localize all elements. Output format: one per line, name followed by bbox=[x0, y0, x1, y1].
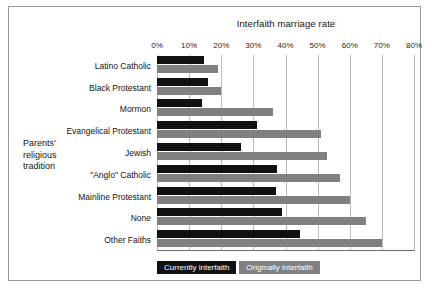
bar-currently-interfaith[interactable] bbox=[157, 143, 241, 151]
plot-area bbox=[157, 55, 414, 251]
chart-legend: Currently interfaithOriginally interfait… bbox=[157, 261, 320, 274]
bar-currently-interfaith[interactable] bbox=[157, 56, 204, 64]
x-axis-tick-labels: 0%10%20%30%40%50%60%70%80% bbox=[9, 41, 430, 53]
bar-originally-interfaith[interactable] bbox=[157, 87, 221, 95]
bar-group[interactable] bbox=[157, 207, 414, 229]
bar-group[interactable] bbox=[157, 120, 414, 142]
chart-figure-frame: Interfaith marriage rate 0%10%20%30%40%5… bbox=[8, 6, 421, 281]
bar-currently-interfaith[interactable] bbox=[157, 187, 276, 195]
bar-originally-interfaith[interactable] bbox=[157, 152, 327, 160]
legend-item[interactable]: Originally interfaith bbox=[239, 261, 319, 274]
bar-group[interactable] bbox=[157, 98, 414, 120]
category-label: None bbox=[27, 213, 151, 223]
bar-group[interactable] bbox=[157, 77, 414, 99]
bar-originally-interfaith[interactable] bbox=[157, 196, 350, 204]
x-tick-label: 0% bbox=[151, 41, 163, 50]
bar-originally-interfaith[interactable] bbox=[157, 130, 321, 138]
category-labels: Latino CatholicBlack ProtestantMormonEva… bbox=[27, 55, 151, 251]
bar-group[interactable] bbox=[157, 186, 414, 208]
x-tick-label: 50% bbox=[310, 41, 326, 50]
bar-group[interactable] bbox=[157, 229, 414, 251]
bar-currently-interfaith[interactable] bbox=[157, 99, 202, 107]
bar-group[interactable] bbox=[157, 55, 414, 77]
bar-originally-interfaith[interactable] bbox=[157, 65, 218, 73]
plot-bottom-rule bbox=[157, 250, 415, 251]
legend-item-label: Originally interfaith bbox=[246, 263, 312, 272]
x-tick-label: 10% bbox=[181, 41, 197, 50]
bar-group[interactable] bbox=[157, 164, 414, 186]
bar-currently-interfaith[interactable] bbox=[157, 121, 257, 129]
bar-originally-interfaith[interactable] bbox=[157, 174, 340, 182]
chart-title: Interfaith marriage rate bbox=[157, 18, 415, 29]
bar-originally-interfaith[interactable] bbox=[157, 239, 382, 247]
category-label: Evangelical Protestant bbox=[27, 126, 151, 136]
x-tick-label: 70% bbox=[374, 41, 390, 50]
category-label: Other Faiths bbox=[27, 235, 151, 245]
category-label: "Anglo" Catholic bbox=[27, 170, 151, 180]
bar-originally-interfaith[interactable] bbox=[157, 108, 273, 116]
x-tick-label: 80% bbox=[406, 41, 422, 50]
x-tick-label: 40% bbox=[277, 41, 293, 50]
x-tick-label: 30% bbox=[245, 41, 261, 50]
bar-group[interactable] bbox=[157, 142, 414, 164]
bar-originally-interfaith[interactable] bbox=[157, 217, 366, 225]
category-label: Mormon bbox=[27, 104, 151, 114]
x-tick-label: 60% bbox=[342, 41, 358, 50]
bar-currently-interfaith[interactable] bbox=[157, 78, 208, 86]
legend-item[interactable]: Currently interfaith bbox=[157, 261, 236, 274]
bar-currently-interfaith[interactable] bbox=[157, 208, 282, 216]
x-tick-label: 20% bbox=[213, 41, 229, 50]
category-label: Jewish bbox=[27, 148, 151, 158]
category-label: Black Protestant bbox=[27, 83, 151, 93]
category-label: Latino Catholic bbox=[27, 61, 151, 71]
bar-currently-interfaith[interactable] bbox=[157, 230, 300, 238]
bar-currently-interfaith[interactable] bbox=[157, 165, 277, 173]
gridline bbox=[414, 55, 415, 251]
category-label: Mainline Protestant bbox=[27, 192, 151, 202]
legend-item-label: Currently interfaith bbox=[164, 263, 229, 272]
